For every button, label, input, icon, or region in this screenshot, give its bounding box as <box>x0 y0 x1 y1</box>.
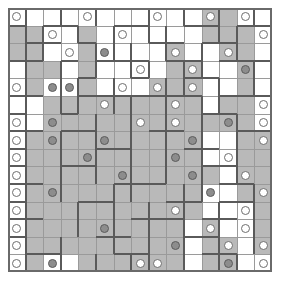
grid-cell[interactable] <box>166 8 184 26</box>
grid-cell[interactable] <box>254 166 272 184</box>
grid-cell[interactable] <box>202 254 220 272</box>
grid-cell[interactable] <box>78 61 96 79</box>
grid-cell[interactable] <box>131 149 149 167</box>
grid-cell[interactable] <box>8 43 26 61</box>
grid-cell[interactable] <box>219 61 237 79</box>
white-pearl-icon[interactable] <box>136 259 145 268</box>
grid-cell[interactable] <box>43 8 61 26</box>
white-pearl-icon[interactable] <box>118 83 127 92</box>
grid-cell[interactable] <box>96 78 114 96</box>
grid-cell[interactable] <box>131 202 149 220</box>
white-pearl-icon[interactable] <box>12 224 21 233</box>
grid-cell[interactable] <box>114 202 132 220</box>
grid-cell[interactable] <box>114 149 132 167</box>
white-pearl-icon[interactable] <box>224 48 233 57</box>
white-pearl-icon[interactable] <box>171 118 180 127</box>
grid-cell[interactable] <box>202 237 220 255</box>
white-pearl-icon[interactable] <box>259 136 268 145</box>
grid-cell[interactable] <box>26 149 44 167</box>
grid-cell[interactable] <box>26 96 44 114</box>
grid-cell[interactable] <box>131 166 149 184</box>
white-pearl-icon[interactable] <box>171 100 180 109</box>
grid-cell[interactable] <box>61 114 79 132</box>
white-pearl-icon[interactable] <box>224 153 233 162</box>
grid-cell[interactable] <box>114 96 132 114</box>
grid-cell[interactable] <box>202 43 220 61</box>
grid-cell[interactable] <box>78 219 96 237</box>
grid-cell[interactable] <box>8 61 26 79</box>
grid-cell[interactable] <box>219 96 237 114</box>
grid-cell[interactable] <box>219 219 237 237</box>
grid-cell[interactable] <box>237 149 255 167</box>
puzzle-board[interactable] <box>8 8 272 272</box>
grid-cell[interactable] <box>61 96 79 114</box>
white-pearl-icon[interactable] <box>241 206 250 215</box>
white-pearl-icon[interactable] <box>206 224 215 233</box>
gray-pearl-icon[interactable] <box>118 171 127 180</box>
grid-cell[interactable] <box>114 237 132 255</box>
grid-cell[interactable] <box>184 254 202 272</box>
grid-cell[interactable] <box>202 166 220 184</box>
white-pearl-icon[interactable] <box>136 65 145 74</box>
gray-pearl-icon[interactable] <box>83 153 92 162</box>
white-pearl-icon[interactable] <box>259 100 268 109</box>
grid-cell[interactable] <box>131 237 149 255</box>
gray-pearl-icon[interactable] <box>171 153 180 162</box>
white-pearl-icon[interactable] <box>259 118 268 127</box>
grid-cell[interactable] <box>8 96 26 114</box>
grid-cell[interactable] <box>61 184 79 202</box>
grid-cell[interactable] <box>26 202 44 220</box>
grid-cell[interactable] <box>219 26 237 44</box>
grid-cell[interactable] <box>26 166 44 184</box>
grid-cell[interactable] <box>114 219 132 237</box>
grid-cell[interactable] <box>149 61 167 79</box>
gray-pearl-icon[interactable] <box>65 83 74 92</box>
grid-cell[interactable] <box>237 237 255 255</box>
grid-cell[interactable] <box>237 26 255 44</box>
grid-cell[interactable] <box>96 166 114 184</box>
grid-cell[interactable] <box>184 43 202 61</box>
grid-cell[interactable] <box>149 184 167 202</box>
grid-cell[interactable] <box>96 237 114 255</box>
grid-cell[interactable] <box>78 96 96 114</box>
grid-cell[interactable] <box>166 26 184 44</box>
grid-cell[interactable] <box>166 61 184 79</box>
grid-cell[interactable] <box>166 78 184 96</box>
gray-pearl-icon[interactable] <box>100 136 109 145</box>
grid-cell[interactable] <box>131 26 149 44</box>
gray-pearl-icon[interactable] <box>100 224 109 233</box>
grid-cell[interactable] <box>237 43 255 61</box>
grid-cell[interactable] <box>78 254 96 272</box>
grid-cell[interactable] <box>184 202 202 220</box>
grid-cell[interactable] <box>149 237 167 255</box>
grid-cell[interactable] <box>96 114 114 132</box>
grid-cell[interactable] <box>219 202 237 220</box>
grid-cell[interactable] <box>166 254 184 272</box>
grid-cell[interactable] <box>114 114 132 132</box>
grid-cell[interactable] <box>254 61 272 79</box>
grid-cell[interactable] <box>26 219 44 237</box>
white-pearl-icon[interactable] <box>153 259 162 268</box>
grid-cell[interactable] <box>26 131 44 149</box>
grid-cell[interactable] <box>166 131 184 149</box>
grid-cell[interactable] <box>43 219 61 237</box>
grid-cell[interactable] <box>219 8 237 26</box>
grid-cell[interactable] <box>237 184 255 202</box>
white-pearl-icon[interactable] <box>118 30 127 39</box>
grid-cell[interactable] <box>26 114 44 132</box>
grid-cell[interactable] <box>184 26 202 44</box>
grid-cell[interactable] <box>61 237 79 255</box>
grid-cell[interactable] <box>78 26 96 44</box>
grid-cell[interactable] <box>184 184 202 202</box>
grid-cell[interactable] <box>114 8 132 26</box>
grid-cell[interactable] <box>43 61 61 79</box>
grid-cell[interactable] <box>78 237 96 255</box>
gray-pearl-icon[interactable] <box>100 48 109 57</box>
grid-cell[interactable] <box>96 26 114 44</box>
white-pearl-icon[interactable] <box>12 171 21 180</box>
grid-cell[interactable] <box>26 8 44 26</box>
gray-pearl-icon[interactable] <box>48 118 57 127</box>
grid-cell[interactable] <box>202 202 220 220</box>
grid-cell[interactable] <box>61 202 79 220</box>
grid-cell[interactable] <box>114 254 132 272</box>
